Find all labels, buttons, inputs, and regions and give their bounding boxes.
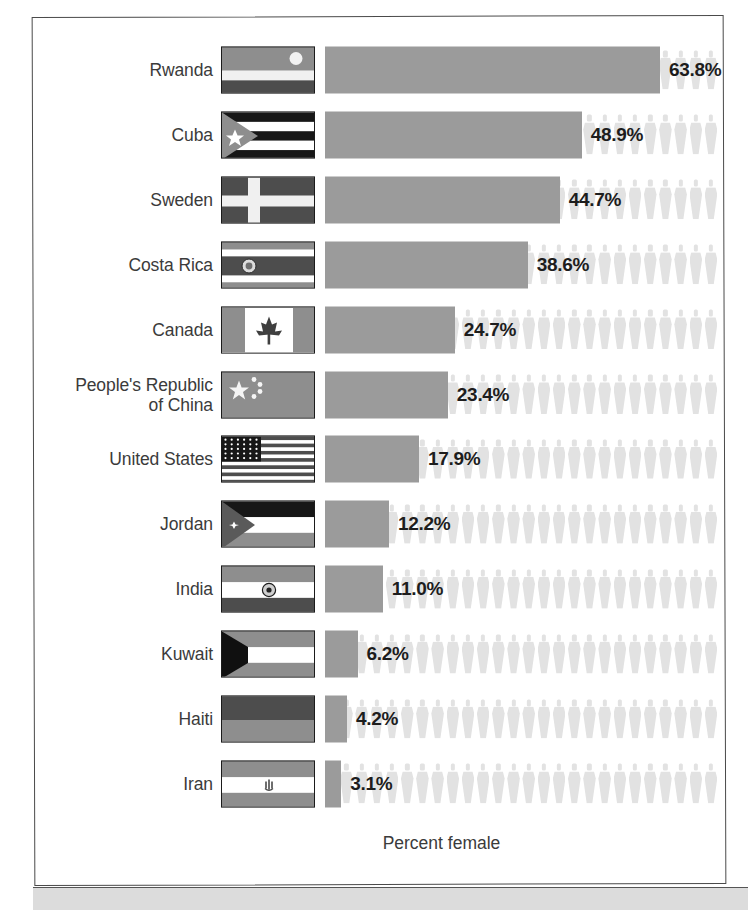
person-icon <box>462 634 475 674</box>
person-icon <box>614 634 627 674</box>
person-icon <box>522 569 535 609</box>
person-icon <box>659 180 672 220</box>
person-icon <box>674 180 687 220</box>
person-icon <box>553 699 566 739</box>
country-label-line1: Kuwait <box>161 644 213 664</box>
person-icon <box>568 569 581 609</box>
person-icon <box>447 764 460 804</box>
person-icon <box>705 634 718 674</box>
person-icon <box>583 375 596 415</box>
person-icon <box>462 764 475 804</box>
person-icon <box>659 310 672 350</box>
person-icon <box>598 439 611 479</box>
person-icon <box>583 569 596 609</box>
flag-sweden <box>221 176 315 223</box>
person-icon <box>522 634 535 674</box>
value-label: 17.9% <box>428 448 480 470</box>
person-icon <box>629 569 642 609</box>
chart-row: Cuba48.9% <box>0 104 748 166</box>
person-icon <box>705 245 718 285</box>
value-label: 63.8% <box>669 59 721 81</box>
person-icon <box>553 764 566 804</box>
person-icon <box>416 699 429 739</box>
value-bar <box>325 306 455 353</box>
person-icon <box>538 375 551 415</box>
person-icon <box>598 634 611 674</box>
country-label: People's Republicof China <box>20 375 213 415</box>
person-icon <box>629 764 642 804</box>
person-icon <box>659 569 672 609</box>
person-icon <box>705 375 718 415</box>
value-label: 11.0% <box>392 578 443 600</box>
person-icon <box>705 569 718 609</box>
person-icon <box>477 504 490 544</box>
person-icon <box>644 180 657 220</box>
country-label-line1: Iran <box>183 774 213 794</box>
person-icon <box>644 569 657 609</box>
person-icon <box>538 310 551 350</box>
person-icon <box>674 699 687 739</box>
person-icon <box>492 569 505 609</box>
person-icon <box>568 375 581 415</box>
person-icon <box>659 634 672 674</box>
country-label: Iran <box>20 774 213 794</box>
person-icon <box>492 699 505 739</box>
person-icon <box>431 634 444 674</box>
person-icon <box>477 699 490 739</box>
person-icon <box>659 245 672 285</box>
person-icon <box>674 310 687 350</box>
person-icon <box>522 439 535 479</box>
person-icon <box>553 439 566 479</box>
person-icon-track <box>325 566 725 613</box>
person-icon <box>644 245 657 285</box>
person-icon <box>598 764 611 804</box>
person-icon <box>462 699 475 739</box>
person-icon <box>690 764 703 804</box>
person-icon <box>598 699 611 739</box>
country-label-line1: People's Republic <box>75 375 213 395</box>
person-icon <box>568 634 581 674</box>
person-icon <box>477 569 490 609</box>
flag-kuwait <box>221 631 315 678</box>
country-label: Rwanda <box>20 60 213 80</box>
chart-row: Sweden44.7% <box>0 169 748 231</box>
value-label: 4.2% <box>356 708 398 730</box>
value-label: 6.2% <box>367 643 409 665</box>
person-icon <box>674 569 687 609</box>
person-icon <box>492 634 505 674</box>
person-icon <box>629 310 642 350</box>
person-icon <box>674 375 687 415</box>
chart-row: People's Republicof China23.4% <box>0 364 748 426</box>
value-label: 38.6% <box>537 254 589 276</box>
person-icon <box>507 439 520 479</box>
person-icon <box>614 245 627 285</box>
person-icon <box>598 375 611 415</box>
person-icon <box>583 504 596 544</box>
person-icon <box>659 115 672 155</box>
person-icon <box>644 504 657 544</box>
person-icon <box>431 764 444 804</box>
person-icon <box>674 439 687 479</box>
person-icon <box>614 764 627 804</box>
value-bar <box>325 696 347 743</box>
country-label: Kuwait <box>20 644 213 664</box>
person-icon <box>447 699 460 739</box>
chart-row: India11.0% <box>0 558 748 620</box>
person-icon <box>492 764 505 804</box>
person-icon <box>583 764 596 804</box>
person-icon <box>674 115 687 155</box>
person-icon <box>553 504 566 544</box>
person-icon <box>705 504 718 544</box>
person-icon <box>674 504 687 544</box>
person-icon <box>644 634 657 674</box>
person-icon <box>492 504 505 544</box>
person-icon <box>644 764 657 804</box>
person-icon <box>568 310 581 350</box>
country-label-line1: Sweden <box>150 190 213 210</box>
person-icon <box>538 439 551 479</box>
person-icon <box>614 504 627 544</box>
person-icon <box>690 180 703 220</box>
person-icon <box>659 439 672 479</box>
person-icon <box>553 634 566 674</box>
